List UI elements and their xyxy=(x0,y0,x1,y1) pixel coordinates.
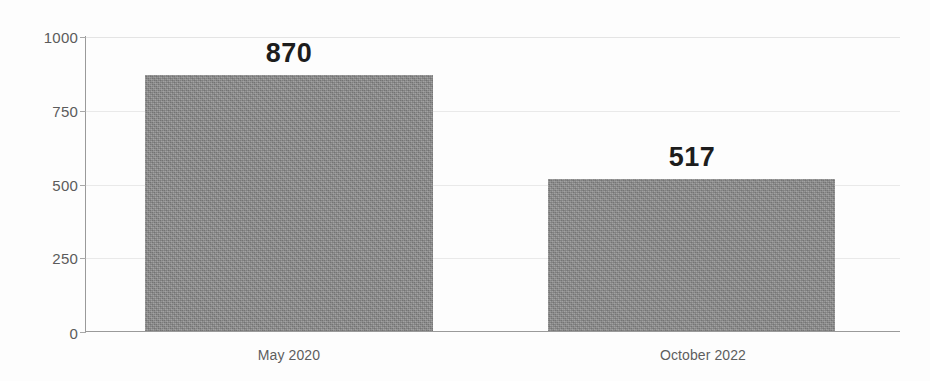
y-tick-label-500: 500 xyxy=(16,177,78,194)
bar-october-2022[interactable] xyxy=(548,179,835,332)
y-tick-label-750: 750 xyxy=(16,103,78,120)
gridline-1000 xyxy=(86,37,900,38)
plot-area xyxy=(86,37,900,332)
y-tick-label-250: 250 xyxy=(16,250,78,267)
category-label-may-2020: May 2020 xyxy=(258,347,320,363)
bar-chart-figure: 1000 750 500 250 0 870 517 May 2020 Octo… xyxy=(0,0,930,381)
y-axis-tick-labels: 1000 750 500 250 0 xyxy=(8,0,78,381)
value-label-october-2022: 517 xyxy=(669,142,716,173)
tick-mark-0 xyxy=(80,332,86,333)
tick-mark-1000 xyxy=(80,37,86,38)
bar-may-2020[interactable] xyxy=(145,75,433,332)
tick-mark-750 xyxy=(80,111,86,112)
value-label-may-2020: 870 xyxy=(266,38,313,69)
x-axis-line xyxy=(85,331,900,332)
y-tick-label-1000: 1000 xyxy=(16,29,78,46)
y-tick-label-0: 0 xyxy=(16,325,78,342)
category-label-october-2022: October 2022 xyxy=(660,347,746,363)
tick-mark-500 xyxy=(80,185,86,186)
tick-mark-250 xyxy=(80,258,86,259)
